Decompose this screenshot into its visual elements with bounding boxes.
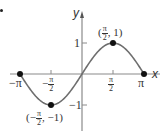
y-axis-arrow-icon — [80, 11, 84, 18]
x-axis-label: x — [152, 68, 158, 80]
point-coords-rest: , −1) — [42, 111, 63, 123]
point-min — [48, 102, 54, 108]
denominator: 2 — [49, 85, 53, 93]
max-point-label: (π2, 1) — [98, 25, 122, 41]
y-tick-label-neg-1: −1 — [69, 99, 82, 111]
fraction-pi-over-2: π2 — [108, 76, 114, 92]
paren-open: (− — [26, 111, 36, 123]
denominator: 2 — [103, 34, 107, 42]
x-tick-label-pi: π — [138, 77, 144, 89]
fraction-pi-over-2: π2 — [48, 76, 54, 92]
y-tick-label-1: 1 — [74, 37, 80, 49]
denominator: 2 — [109, 85, 113, 93]
x-tick-label-neg-pi: −π — [9, 77, 22, 89]
sine-plot — [0, 0, 162, 132]
point-coords-rest: , 1) — [108, 26, 123, 38]
denominator: 2 — [37, 119, 41, 127]
x-tick-label-neg-half-pi: −π2 — [42, 76, 54, 92]
min-point-label: (−π2, −1) — [26, 110, 63, 126]
x-tick-label-half-pi: π2 — [108, 76, 114, 92]
y-axis-label: y — [73, 7, 79, 19]
